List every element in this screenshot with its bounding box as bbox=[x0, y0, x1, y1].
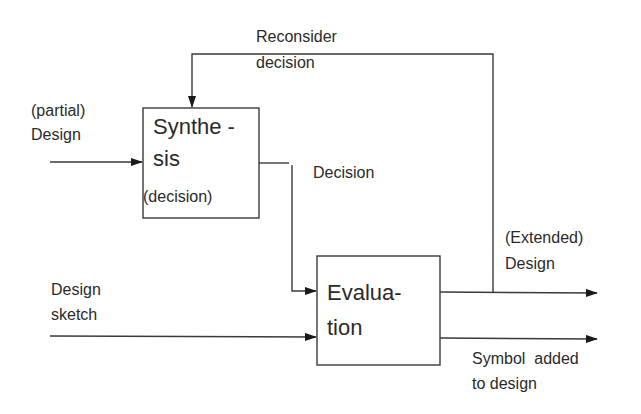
decision-label: Decision bbox=[313, 164, 374, 181]
evaluation-node: Evalua- tion bbox=[317, 256, 440, 365]
symbol-added-output-edge: Symbol added to design bbox=[440, 338, 597, 392]
extended-design-label-line2: Design bbox=[505, 255, 555, 272]
extended-design-output-edge: (Extended) Design bbox=[440, 229, 597, 293]
symbol-added-label-line2: to design bbox=[472, 375, 537, 392]
partial-design-label-line2: Design bbox=[31, 126, 81, 143]
partial-design-input-edge: (partial) Design bbox=[31, 102, 142, 162]
evaluation-label-line1: Evalua- bbox=[327, 280, 402, 305]
synthesis-sublabel: (decision) bbox=[143, 188, 212, 205]
extended-design-label-line1: (Extended) bbox=[505, 229, 583, 246]
reconsider-label-line1: Reconsider bbox=[256, 28, 338, 45]
design-sketch-input-edge: Design sketch bbox=[50, 281, 316, 337]
design-process-diagram: Reconsider decision (partial) Design Syn… bbox=[0, 0, 641, 414]
synthesis-label-line2: sis bbox=[153, 146, 180, 171]
synthesis-label-line1: Synthe - bbox=[153, 114, 235, 139]
symbol-added-label-line1: Symbol added bbox=[472, 350, 579, 367]
synthesis-node: Synthe - sis (decision) bbox=[143, 108, 259, 218]
design-sketch-label-line2: sketch bbox=[51, 306, 97, 323]
partial-design-label-line1: (partial) bbox=[31, 102, 85, 119]
reconsider-label-line2: decision bbox=[256, 54, 315, 71]
evaluation-box bbox=[317, 256, 440, 365]
evaluation-label-line2: tion bbox=[327, 315, 362, 340]
design-sketch-label-line1: Design bbox=[51, 281, 101, 298]
